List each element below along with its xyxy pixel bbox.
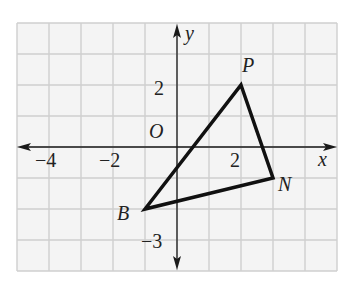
vertex-label-n: N	[277, 173, 293, 195]
origin-label: O	[149, 120, 163, 142]
x-tick-label-neg4: −4	[35, 149, 56, 171]
y-tick-label-neg3: −3	[141, 230, 162, 252]
x-tick-label-neg2: −2	[99, 149, 120, 171]
vertex-label-p: P	[241, 54, 254, 76]
y-axis-label: y	[183, 22, 194, 45]
x-axis-label: x	[317, 148, 327, 170]
x-tick-label-2: 2	[230, 149, 240, 171]
vertex-label-b: B	[117, 202, 129, 224]
y-tick-label-2: 2	[154, 77, 164, 99]
coordinate-grid-figure: x y O −4 −2 2 2 −3 P N B	[0, 0, 362, 287]
